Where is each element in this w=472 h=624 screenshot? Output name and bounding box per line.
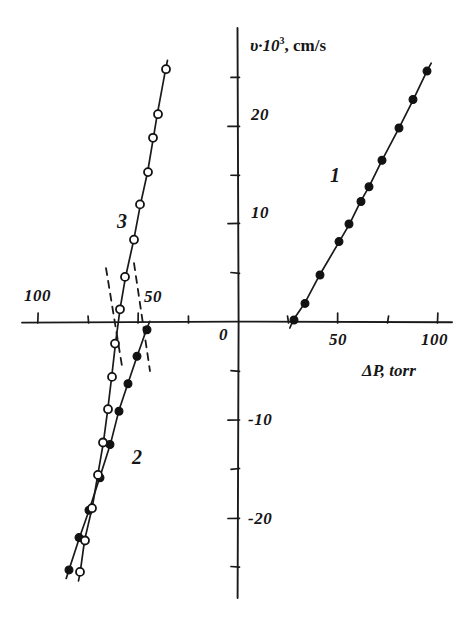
open-circle-marker (111, 340, 119, 348)
curve-label-1: 1 (330, 165, 340, 185)
open-circle-marker (99, 439, 107, 447)
filled-circle-marker (365, 183, 373, 191)
filled-circle-marker (345, 220, 353, 228)
series-3 (76, 60, 170, 581)
y-axis-unit: , cm/s (285, 36, 327, 55)
y-axis-symbol: υ·10 (250, 36, 280, 55)
filled-circle-marker (115, 407, 123, 415)
series-line (290, 63, 431, 328)
open-circle-marker (154, 110, 162, 118)
filled-circle-marker (143, 326, 151, 334)
open-circle-marker (149, 134, 157, 142)
x-tick-label-left-50: 50 (144, 288, 162, 305)
origin-label: 0 (219, 326, 228, 343)
open-circle-marker (88, 504, 96, 512)
x-axis-title: ΔP, torr (362, 362, 416, 379)
open-circle-marker (130, 236, 138, 244)
filled-circle-marker (301, 300, 309, 308)
open-circle-marker (144, 168, 152, 176)
plot-canvas (0, 0, 472, 624)
y-tick-label-neg20: -20 (248, 510, 272, 527)
filled-circle-marker (316, 271, 324, 279)
filled-circle-marker (65, 566, 73, 574)
series-1 (290, 63, 431, 328)
filled-circle-marker (357, 198, 365, 206)
filled-circle-marker (395, 124, 403, 132)
open-circle-marker (104, 405, 112, 413)
open-circle-marker (121, 273, 129, 281)
x-tick-label-right-100: 100 (421, 331, 448, 348)
filled-circle-marker (290, 316, 298, 324)
curve-label-2: 2 (132, 447, 142, 467)
open-circle-marker (76, 568, 84, 576)
curve-label-3: 3 (117, 211, 127, 231)
figure-container: υ·103, cm/s ΔP, torr 0 50 100 100 50 20 … (0, 0, 472, 624)
open-circle-marker (136, 200, 144, 208)
filled-circle-marker (133, 352, 141, 360)
filled-circle-marker (409, 96, 417, 104)
y-tick-label-neg10: -10 (248, 411, 272, 428)
y-tick-label-10: 10 (251, 204, 269, 221)
filled-circle-marker (378, 156, 386, 164)
y-axis-title: υ·103, cm/s (250, 36, 326, 54)
filled-circle-marker (423, 67, 431, 75)
data-series-group (65, 60, 431, 581)
open-circle-marker (108, 373, 116, 381)
x-tick-label-left-100: 100 (24, 287, 51, 304)
open-circle-marker (81, 537, 89, 545)
open-circle-marker (94, 471, 102, 479)
filled-circle-marker (124, 380, 132, 388)
open-circle-marker (116, 305, 124, 313)
filled-circle-marker (335, 238, 343, 246)
y-tick-label-20: 20 (251, 106, 269, 123)
x-tick-label-right-50: 50 (329, 331, 347, 348)
open-circle-marker (162, 65, 170, 73)
